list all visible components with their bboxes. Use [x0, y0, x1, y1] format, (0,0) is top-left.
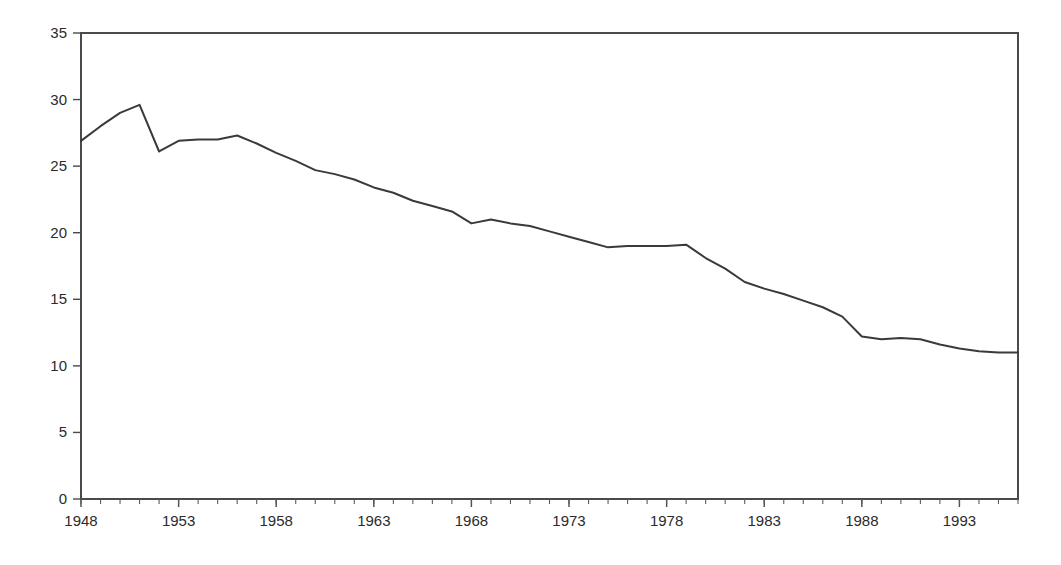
x-tick-label: 1983: [748, 512, 781, 529]
x-tick-label: 1988: [845, 512, 878, 529]
x-tick-label: 1968: [455, 512, 488, 529]
x-tick-label: 1948: [64, 512, 97, 529]
y-tick-label: 35: [50, 24, 67, 41]
chart-background: [0, 0, 1061, 565]
y-tick-label: 15: [50, 290, 67, 307]
x-tick-label: 1953: [162, 512, 195, 529]
y-tick-label: 0: [59, 490, 67, 507]
x-tick-label: 1993: [943, 512, 976, 529]
x-tick-label: 1973: [552, 512, 585, 529]
y-tick-label: 20: [50, 224, 67, 241]
y-tick-label: 25: [50, 157, 67, 174]
line-chart-figure: 05101520253035 1948195319581963196819731…: [0, 0, 1061, 565]
chart-canvas: 05101520253035 1948195319581963196819731…: [0, 0, 1061, 565]
y-tick-label: 5: [59, 423, 67, 440]
y-tick-label: 10: [50, 357, 67, 374]
x-tick-label: 1958: [260, 512, 293, 529]
x-tick-label: 1963: [357, 512, 390, 529]
y-tick-label: 30: [50, 91, 67, 108]
x-tick-label: 1978: [650, 512, 683, 529]
